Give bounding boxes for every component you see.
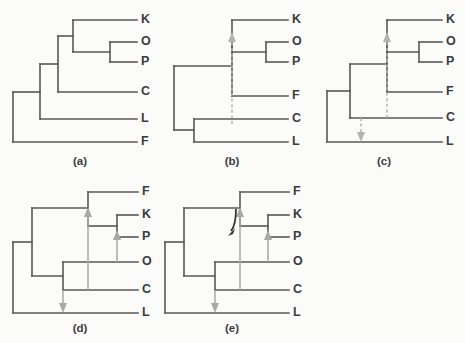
tip-label-O: O (141, 34, 151, 48)
figure-canvas: K O P C L F (a) K O P F C (0, 0, 465, 343)
panel-caption-d: (d) (73, 322, 88, 334)
tip-label-L: L (292, 134, 300, 148)
tip-label-P: P (292, 54, 300, 68)
tip-label-K: K (142, 207, 151, 221)
tip-label-C: C (293, 282, 302, 296)
tip-label-C: C (142, 282, 151, 296)
tip-label-F: F (141, 134, 149, 148)
tip-label-L: L (142, 305, 150, 319)
tip-label-O: O (446, 34, 456, 48)
tip-label-P: P (141, 54, 149, 68)
panel-caption-a: (a) (73, 155, 87, 167)
tip-label-K: K (292, 12, 301, 26)
tip-label-K: K (446, 12, 455, 26)
tip-label-O: O (293, 254, 303, 268)
tip-label-C: C (141, 84, 150, 98)
tip-label-O: O (292, 34, 302, 48)
tip-label-F: F (292, 88, 300, 102)
tip-label-L: L (293, 305, 301, 319)
tip-label-P: P (293, 229, 301, 243)
panel-caption-c: (c) (377, 155, 391, 167)
tip-label-P: P (142, 229, 150, 243)
tip-label-C: C (446, 110, 455, 124)
tip-label-P: P (446, 54, 454, 68)
tip-label-F: F (142, 184, 150, 198)
panel-caption-b: (b) (225, 155, 240, 167)
tip-label-K: K (141, 12, 150, 26)
tip-label-L: L (141, 111, 149, 125)
panel-caption-e: (e) (225, 322, 239, 334)
tip-label-L: L (446, 134, 454, 148)
tip-label-O: O (142, 254, 152, 268)
tip-label-F: F (446, 84, 454, 98)
tip-label-C: C (292, 111, 301, 125)
tip-label-K: K (293, 207, 302, 221)
tip-label-F: F (293, 184, 301, 198)
cladogram-figure: K O P C L F (a) K O P F C (0, 0, 465, 343)
